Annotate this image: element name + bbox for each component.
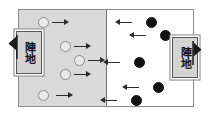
filled-circle-icon — [131, 95, 142, 106]
open-circle-icon — [60, 69, 71, 80]
filled-circle-icon — [146, 17, 157, 28]
filled-circle-icon — [134, 57, 145, 68]
open-circle-icon — [60, 41, 71, 52]
center-divider — [106, 10, 107, 106]
open-circle-icon — [74, 55, 85, 66]
open-circle-icon — [38, 17, 49, 28]
open-circle-icon — [38, 90, 49, 101]
camp-left-label: 陣地 — [24, 42, 35, 64]
flag-right-icon — [190, 41, 202, 65]
flag-left-icon — [8, 35, 20, 59]
filled-circle-icon — [153, 82, 164, 93]
camp-right-label: 陣地 — [180, 47, 191, 69]
diagram-canvas: 陣地 陣地 — [0, 0, 210, 116]
filled-circle-icon — [160, 30, 171, 41]
